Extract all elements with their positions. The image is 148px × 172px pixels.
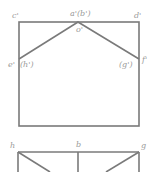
front-view-outline [19,22,139,126]
label-g: g [141,142,146,150]
projection-drawing [0,0,148,172]
label-d-prime: d' [134,12,141,20]
label-h: h [10,142,15,150]
label-h-prime: (h') [20,61,34,69]
label-g-prime: (g') [119,61,133,69]
label-e-prime: e' [8,61,15,69]
label-f-prime: f' [142,56,147,64]
label-a-prime-b-prime: a'(b') [70,10,91,18]
label-c-prime: c' [12,12,19,20]
top-view-diagonal-left [18,152,50,172]
label-b: b [76,141,81,149]
label-o-prime: o' [76,26,83,34]
top-view-diagonal-right [106,152,139,172]
